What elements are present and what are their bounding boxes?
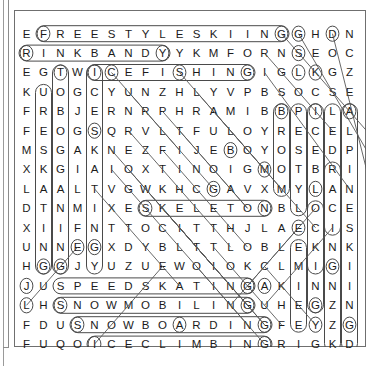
letter-cell[interactable]: N: [86, 218, 103, 237]
letter-cell[interactable]: Q: [103, 121, 120, 140]
letter-cell[interactable]: K: [273, 276, 290, 295]
letter-cell[interactable]: O: [222, 257, 239, 276]
letter-cell[interactable]: T: [188, 237, 205, 256]
letter-cell[interactable]: U: [256, 295, 273, 314]
letter-cell[interactable]: I: [171, 334, 188, 353]
letter-cell[interactable]: N: [120, 102, 137, 121]
letter-cell[interactable]: K: [154, 199, 171, 218]
letter-cell[interactable]: V: [137, 121, 154, 140]
letter-cell[interactable]: S: [69, 315, 86, 334]
letter-cell[interactable]: X: [18, 160, 35, 179]
letter-cell[interactable]: L: [222, 237, 239, 256]
letter-cell[interactable]: E: [86, 276, 103, 295]
letter-cell[interactable]: O: [239, 237, 256, 256]
letter-cell[interactable]: D: [18, 199, 35, 218]
letter-cell[interactable]: F: [69, 218, 86, 237]
letter-cell[interactable]: G: [69, 82, 86, 101]
letter-cell[interactable]: H: [18, 257, 35, 276]
letter-cell[interactable]: G: [205, 179, 222, 198]
letter-cell[interactable]: M: [256, 160, 273, 179]
letter-cell[interactable]: U: [35, 334, 52, 353]
letter-grid[interactable]: EFREESTYLESKIINGGHDNRINKBANDYYKMFORNSEOC…: [18, 24, 358, 354]
letter-cell[interactable]: E: [341, 199, 358, 218]
letter-cell[interactable]: I: [307, 257, 324, 276]
letter-cell[interactable]: C: [324, 199, 341, 218]
letter-cell[interactable]: R: [52, 24, 69, 43]
letter-cell[interactable]: F: [18, 315, 35, 334]
letter-cell[interactable]: S: [52, 295, 69, 314]
letter-cell[interactable]: S: [103, 24, 120, 43]
letter-cell[interactable]: V: [222, 82, 239, 101]
letter-cell[interactable]: F: [273, 315, 290, 334]
letter-cell[interactable]: I: [205, 276, 222, 295]
letter-cell[interactable]: C: [307, 121, 324, 140]
letter-cell[interactable]: U: [52, 315, 69, 334]
letter-cell[interactable]: N: [69, 295, 86, 314]
letter-cell[interactable]: G: [52, 257, 69, 276]
letter-cell[interactable]: S: [341, 218, 358, 237]
letter-cell[interactable]: I: [239, 102, 256, 121]
letter-cell[interactable]: E: [205, 140, 222, 159]
letter-cell[interactable]: E: [18, 63, 35, 82]
letter-cell[interactable]: L: [188, 199, 205, 218]
letter-cell[interactable]: O: [239, 43, 256, 62]
letter-cell[interactable]: B: [307, 160, 324, 179]
word-search-grid-container[interactable]: EFREESTYLESKIINGGHDNRINKBANDYYKMFORNSEOC…: [14, 10, 366, 347]
letter-cell[interactable]: H: [307, 24, 324, 43]
letter-cell[interactable]: N: [307, 276, 324, 295]
letter-cell[interactable]: G: [120, 179, 137, 198]
letter-cell[interactable]: Z: [120, 257, 137, 276]
letter-cell[interactable]: N: [222, 295, 239, 314]
letter-cell[interactable]: B: [86, 43, 103, 62]
letter-cell[interactable]: W: [103, 295, 120, 314]
letter-cell[interactable]: D: [205, 315, 222, 334]
letter-cell[interactable]: A: [52, 179, 69, 198]
letter-cell[interactable]: O: [69, 334, 86, 353]
letter-cell[interactable]: H: [222, 218, 239, 237]
letter-cell[interactable]: Z: [341, 63, 358, 82]
letter-cell[interactable]: H: [171, 179, 188, 198]
letter-cell[interactable]: L: [341, 121, 358, 140]
letter-cell[interactable]: Y: [256, 121, 273, 140]
letter-cell[interactable]: Y: [137, 24, 154, 43]
letter-cell[interactable]: B: [222, 140, 239, 159]
letter-cell[interactable]: R: [120, 121, 137, 140]
letter-cell[interactable]: M: [188, 334, 205, 353]
letter-cell[interactable]: I: [205, 63, 222, 82]
letter-cell[interactable]: A: [69, 140, 86, 159]
letter-cell[interactable]: H: [171, 82, 188, 101]
letter-cell[interactable]: Z: [137, 140, 154, 159]
letter-cell[interactable]: K: [154, 276, 171, 295]
letter-cell[interactable]: T: [205, 237, 222, 256]
letter-cell[interactable]: N: [256, 24, 273, 43]
letter-cell[interactable]: O: [86, 295, 103, 314]
letter-cell[interactable]: L: [18, 179, 35, 198]
letter-cell[interactable]: G: [324, 257, 341, 276]
letter-cell[interactable]: E: [307, 140, 324, 159]
letter-cell[interactable]: S: [86, 121, 103, 140]
letter-cell[interactable]: E: [290, 315, 307, 334]
letter-cell[interactable]: T: [171, 121, 188, 140]
letter-cell[interactable]: R: [188, 315, 205, 334]
letter-cell[interactable]: G: [69, 121, 86, 140]
letter-cell[interactable]: N: [256, 199, 273, 218]
letter-cell[interactable]: M: [120, 295, 137, 314]
letter-cell[interactable]: N: [324, 276, 341, 295]
letter-cell[interactable]: T: [188, 218, 205, 237]
letter-cell[interactable]: S: [52, 276, 69, 295]
letter-cell[interactable]: C: [188, 179, 205, 198]
letter-cell[interactable]: R: [188, 102, 205, 121]
letter-cell[interactable]: E: [120, 63, 137, 82]
letter-cell[interactable]: G: [35, 63, 52, 82]
letter-cell[interactable]: O: [290, 82, 307, 101]
letter-cell[interactable]: J: [188, 140, 205, 159]
letter-cell[interactable]: L: [154, 334, 171, 353]
letter-cell[interactable]: N: [341, 295, 358, 314]
letter-cell[interactable]: D: [137, 43, 154, 62]
letter-cell[interactable]: O: [52, 82, 69, 101]
letter-cell[interactable]: B: [154, 295, 171, 314]
letter-cell[interactable]: I: [171, 160, 188, 179]
letter-cell[interactable]: I: [171, 218, 188, 237]
letter-cell[interactable]: A: [171, 315, 188, 334]
letter-cell[interactable]: G: [35, 257, 52, 276]
